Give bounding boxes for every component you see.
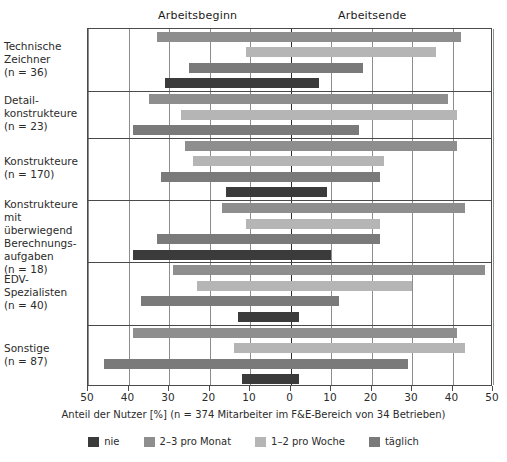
category-label: Sonstige(n = 87) <box>4 342 84 368</box>
legend-swatch-monat <box>144 437 155 447</box>
category-label-line: Spezialisten <box>4 286 84 299</box>
group-separator <box>88 262 491 263</box>
category-label-line: konstrukteure <box>4 107 84 120</box>
bar-mon <box>173 265 485 275</box>
category-label-line: Detail- <box>4 94 84 107</box>
group-separator <box>88 91 491 92</box>
axis-tick-label: 30 <box>153 391 183 403</box>
bar-tag <box>141 296 339 306</box>
header-label-arbeitsbeginn: Arbeitsbeginn <box>158 9 237 22</box>
legend-item-monat[interactable]: 2–3 pro Monat <box>144 436 232 447</box>
bar-mon <box>149 94 449 104</box>
legend-item-taeglich[interactable]: täglich <box>369 436 419 447</box>
legend-label-taeglich: täglich <box>385 436 419 447</box>
bar-mon <box>157 32 461 42</box>
bar-nie <box>165 78 319 88</box>
category-label-line: Berechnungs- <box>4 237 84 250</box>
category-label-line: Sonstige <box>4 342 84 355</box>
header-label-arbeitsende: Arbeitsende <box>338 9 407 22</box>
category-label-line: Technische <box>4 40 84 53</box>
category-label-line: Konstrukteure <box>4 155 84 168</box>
category-label-line: (n = 40) <box>4 299 84 312</box>
legend-swatch-nie <box>88 437 99 447</box>
bar-nie <box>133 250 331 260</box>
axis-tick-label: 40 <box>437 391 467 403</box>
group-separator <box>88 200 491 201</box>
category-label-line: (n = 170) <box>4 168 84 181</box>
gridline <box>129 29 130 385</box>
bar-woc <box>246 47 436 57</box>
bar-tag <box>161 172 380 182</box>
bar-mon <box>185 141 456 151</box>
bar-mon <box>133 328 457 338</box>
group-separator <box>88 138 491 139</box>
bar-nie <box>242 374 299 384</box>
category-label: Detail-konstrukteure(n = 23) <box>4 94 84 133</box>
legend-swatch-taeglich <box>369 437 380 447</box>
axis-tick-labels: 504030201001020304050 <box>0 391 507 405</box>
legend-swatch-woche <box>255 437 266 447</box>
bar-tag <box>133 125 360 135</box>
axis-tick-label: 20 <box>194 391 224 403</box>
category-label-line: EDV- <box>4 273 84 286</box>
gridline <box>493 29 494 385</box>
bar-woc <box>234 343 465 353</box>
axis-tick-label: 50 <box>477 391 507 403</box>
category-label-line: aufgaben <box>4 250 84 263</box>
category-label-line: Konstrukteure <box>4 198 84 211</box>
bar-tag <box>157 234 380 244</box>
category-label: EDV-Spezialisten(n = 40) <box>4 273 84 312</box>
bar-woc <box>193 156 383 166</box>
legend-label-nie: nie <box>104 436 119 447</box>
bar-tag <box>189 63 363 73</box>
category-label-line: (n = 36) <box>4 66 84 79</box>
axis-tick-label: 50 <box>72 391 102 403</box>
legend-label-monat: 2–3 pro Monat <box>160 436 232 447</box>
category-label-line: mit überwiegend <box>4 211 84 237</box>
bar-nie <box>238 312 299 322</box>
legend-item-woche[interactable]: 1–2 pro Woche <box>255 436 345 447</box>
axis-tick-label: 0 <box>275 391 305 403</box>
category-label: TechnischeZeichner(n = 36) <box>4 40 84 79</box>
axis-tick-label: 40 <box>113 391 143 403</box>
legend-item-nie[interactable]: nie <box>88 436 119 447</box>
legend: nie2–3 pro Monat1–2 pro Wochetäglich <box>0 436 507 447</box>
axis-tick-label: 20 <box>356 391 386 403</box>
bar-nie <box>226 187 327 197</box>
bar-tag <box>104 359 408 369</box>
plot-area <box>87 28 492 386</box>
bar-mon <box>222 203 465 213</box>
axis-caption: Anteil der Nutzer [%] (n = 374 Mitarbeit… <box>0 409 507 420</box>
category-label-line: (n = 23) <box>4 120 84 133</box>
category-label-line: Zeichner <box>4 53 84 66</box>
category-label: Konstrukteure(n = 170) <box>4 155 84 181</box>
bar-woc <box>181 110 456 120</box>
group-separator <box>88 325 491 326</box>
bar-woc <box>197 281 412 291</box>
gridline <box>88 29 89 385</box>
category-label-line: (n = 87) <box>4 355 84 368</box>
axis-tick-label: 10 <box>234 391 264 403</box>
legend-label-woche: 1–2 pro Woche <box>271 436 345 447</box>
axis-tick-label: 30 <box>396 391 426 403</box>
chart-figure: Arbeitsbeginn Arbeitsende TechnischeZeic… <box>0 0 507 462</box>
category-label: Konstrukteuremit überwiegendBerechnungs-… <box>4 198 84 276</box>
axis-tick-label: 10 <box>315 391 345 403</box>
bar-woc <box>246 219 380 229</box>
